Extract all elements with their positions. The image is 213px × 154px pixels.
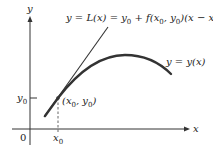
x-axis-label: x bbox=[193, 124, 199, 134]
curve-label: y = y(x) bbox=[166, 57, 205, 67]
y-axis-arrow-icon bbox=[28, 16, 33, 22]
x0-label: x0 bbox=[53, 133, 63, 146]
x-axis-arrow-icon bbox=[184, 127, 190, 132]
tangent-point bbox=[56, 96, 60, 100]
tangent-label: y = L(x) = y0 + f(x0, y0)(x − x0) bbox=[66, 13, 213, 26]
y0-label: y0 bbox=[17, 93, 27, 106]
origin-label: 0 bbox=[20, 133, 26, 143]
point-label: (x0, y0) bbox=[62, 96, 96, 109]
y-axis-label: y bbox=[27, 4, 33, 14]
